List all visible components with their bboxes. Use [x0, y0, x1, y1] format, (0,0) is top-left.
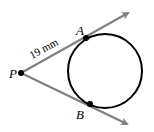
circle	[68, 34, 142, 108]
point-p	[18, 70, 24, 76]
label-a: A	[76, 24, 84, 37]
label-b: B	[76, 108, 84, 121]
label-p: P	[9, 67, 17, 80]
point-b	[87, 101, 93, 107]
tangent-ray-pb	[21, 73, 127, 124]
diagram: P A B 19 mm	[0, 0, 154, 132]
tangent-ray-pa	[21, 13, 128, 73]
